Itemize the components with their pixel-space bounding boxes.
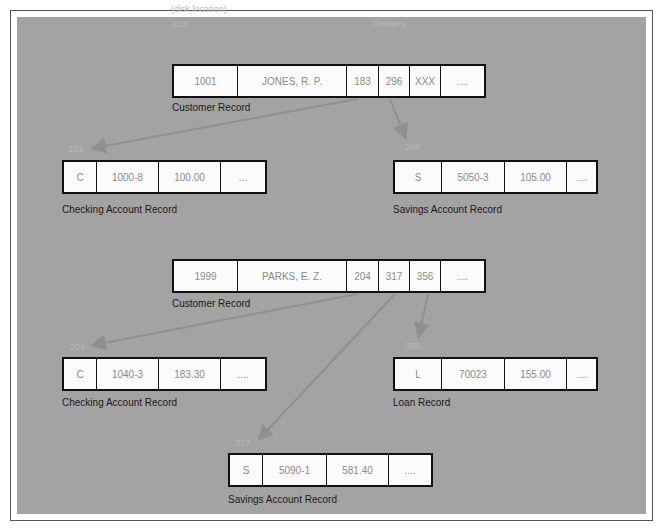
address-cust1: 124 (172, 19, 187, 29)
pointers-annotation: Pointers (373, 19, 406, 29)
type-cell: C (64, 162, 97, 192)
record-label: Checking Account Record (62, 204, 177, 215)
address-loan1: 356 (405, 341, 420, 351)
pointer-cell: 183 (347, 66, 379, 96)
type-cell: L (395, 359, 442, 389)
ellipsis-cell: .... (221, 359, 265, 389)
account-cell: 1000-8 (97, 162, 159, 192)
balance-cell: 155.00 (505, 359, 567, 389)
pointer-cell: 356 (410, 261, 441, 291)
customer-name-cell: JONES, R. P. (238, 66, 347, 96)
pointer-cell: 204 (347, 261, 379, 291)
ellipsis-cell: .... (389, 455, 431, 485)
balance-cell: 100.00 (159, 162, 221, 192)
account-cell: 5050-3 (442, 162, 505, 192)
ellipsis-cell: .... (441, 261, 484, 291)
record-label: Savings Account Record (228, 494, 337, 505)
address-sav2: 317 (235, 438, 250, 448)
account-cell: 5090-1 (263, 455, 327, 485)
ellipsis-cell: ... (221, 162, 265, 192)
account-cell: 1040-3 (97, 359, 159, 389)
address-chk1: 183 (68, 144, 83, 154)
pointer-cell: 296 (379, 66, 410, 96)
type-cell: S (230, 455, 263, 485)
address-sav1: 296 (405, 142, 420, 152)
address-chk2: 204 (70, 342, 85, 352)
ellipsis-cell: .... (441, 66, 484, 96)
savings-record-1: S 5050-3 105.00 .... (393, 160, 598, 194)
customer-record-1: 1001 JONES, R. P. 183 296 XXX .... (172, 64, 486, 98)
balance-cell: 581.40 (327, 455, 389, 485)
ellipsis-cell: .... (567, 359, 596, 389)
checking-record-2: C 1040-3 183.30 .... (62, 357, 267, 391)
type-cell: S (395, 162, 442, 192)
checking-record-1: C 1000-8 100.00 ... (62, 160, 267, 194)
savings-record-2: S 5090-1 581.40 .... (228, 453, 433, 487)
ellipsis-cell: .... (567, 162, 596, 192)
pointer-cell: 317 (379, 261, 410, 291)
balance-cell: 105.00 (505, 162, 567, 192)
record-label: Loan Record (393, 397, 450, 408)
pointer-cell: XXX (410, 66, 441, 96)
record-label: Customer Record (172, 102, 250, 113)
record-label: Savings Account Record (393, 204, 502, 215)
disk-location-annotation: (disk location) (171, 4, 227, 14)
type-cell: C (64, 359, 97, 389)
balance-cell: 183.30 (159, 359, 221, 389)
customer-id-cell: 1001 (174, 66, 238, 96)
loan-record: L 70023 155.00 .... (393, 357, 598, 391)
account-cell: 70023 (442, 359, 505, 389)
customer-record-2: 1999 PARKS, E. Z. 204 317 356 .... (172, 259, 486, 293)
customer-id-cell: 1999 (174, 261, 238, 291)
customer-name-cell: PARKS, E. Z. (238, 261, 347, 291)
record-label: Checking Account Record (62, 397, 177, 408)
record-label: Customer Record (172, 298, 250, 309)
